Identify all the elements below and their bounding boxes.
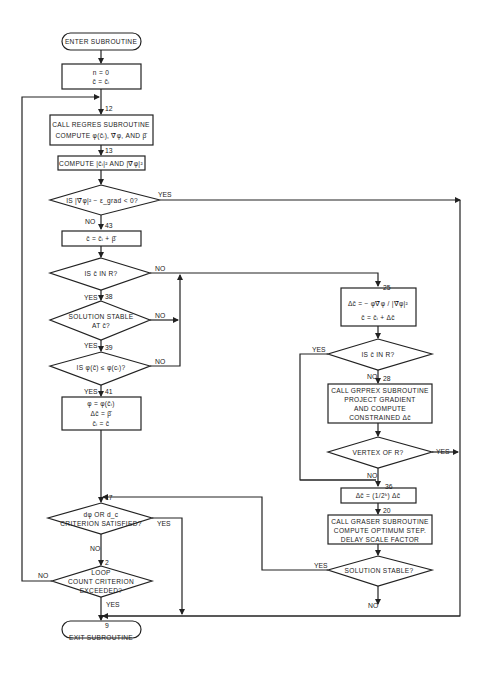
stable-right-text: SOLUTION STABLE?	[345, 567, 414, 574]
step-39: 39	[105, 344, 113, 351]
grad-no-label: NO	[85, 218, 95, 225]
init-box	[62, 64, 141, 89]
in-r-right-text: IS c̄ IN R?	[361, 351, 394, 358]
regres-box	[50, 115, 153, 145]
regres-line2: COMPUTE φ(c̄ᵢ), ∇̄φ, AND β̄	[55, 132, 147, 140]
stable-at-c-yes: YES	[84, 342, 98, 349]
graser-line3: DELAY SCALE FACTOR	[341, 536, 419, 543]
step-20: 20	[383, 507, 391, 514]
enter-label: ENTER SUBROUTINE	[65, 38, 138, 45]
accept-line2: Δc̄ = β̄	[91, 410, 113, 418]
accept-line1: φ = φ(c̄ᵢ)	[87, 400, 115, 408]
stable-right-yes: YES	[314, 562, 328, 569]
flowchart: ENTER SUBROUTINE n = 0 c̄ = c̄ᵢ 12 CALL …	[0, 0, 487, 674]
graser-line2: COMPUTE OPTIMUM STEP.	[334, 527, 426, 534]
grad-check-text: IS |∇̄φ|² − ε_grad < 0?	[66, 197, 138, 205]
stable-right-no: NO	[368, 602, 378, 609]
step-43: 43	[105, 222, 113, 229]
step-2: 2	[105, 559, 109, 566]
phi-check-no: NO	[155, 358, 165, 365]
step-9: 9	[105, 622, 109, 629]
stable-at-c-diamond	[50, 301, 150, 340]
step-41: 41	[105, 388, 113, 395]
criterion-line1: dφ OR d_c	[84, 511, 119, 519]
vertex-yes: YES	[436, 448, 450, 455]
update-c-text: c̄ = c̄ᵢ + β̄	[86, 235, 116, 243]
phi-check-yes: YES	[84, 388, 98, 395]
phi-check-text: IS φ(c̄) ≤ φ(cᵢ)?	[77, 364, 126, 372]
step-28: 28	[383, 375, 391, 382]
grprex-line1: CALL GRPREX SUBROUTINE	[331, 387, 429, 394]
grprex-line4: CONSTRAINED Δc̄	[349, 414, 411, 421]
norms-text: COMPUTE |c̄ᵢ|² AND |∇̄φ|²	[59, 160, 143, 168]
in-r-left-text: IS c̄ IN R?	[84, 270, 117, 277]
in-r-right-no: NO	[367, 373, 377, 380]
stable-at-c-line1: SOLUTION STABLE	[69, 313, 134, 320]
stable-at-c-line2: AT c̄?	[92, 322, 110, 329]
graser-line1: CALL GRASER SUBROUTINE	[331, 518, 429, 525]
criterion-no: NO	[90, 545, 100, 552]
gradient-step-line1: Δc̄ = − φ∇̄φ / |∇̄φ|²	[348, 300, 409, 308]
in-r-right-yes: YES	[312, 346, 326, 353]
gradient-step-line2: c̄ = c̄ᵢ + Δc̄	[361, 314, 395, 321]
step-25: 25	[383, 284, 391, 291]
stable-at-c-no: NO	[155, 312, 165, 319]
criterion-line2: CRITERION SATISFIED?	[60, 520, 141, 527]
step-13: 13	[105, 147, 113, 154]
loop-no: NO	[38, 572, 48, 579]
grad-yes-label: YES	[158, 191, 172, 198]
loop-line2: COUNT CRITERION	[68, 578, 134, 585]
vertex-no: NO	[367, 472, 377, 479]
vertex-text: VERTEX OF R?	[352, 449, 403, 456]
step-17: 17	[105, 494, 113, 501]
accept-line3: c̄ᵢ = c̄	[93, 420, 110, 427]
step-38: 38	[105, 293, 113, 300]
criterion-yes: YES	[157, 520, 171, 527]
exit-label: EXIT SUBROUTINE	[69, 634, 133, 641]
grprex-line3: AND COMPUTE	[354, 405, 406, 412]
loop-line3: EXCEEDED?	[80, 587, 123, 594]
step-36: 36	[385, 483, 393, 490]
loop-line1: LOOP	[91, 569, 111, 576]
step-12: 12	[105, 105, 113, 112]
criterion-diamond	[48, 503, 152, 534]
in-r-left-yes: YES	[84, 294, 98, 301]
init-line2: c̄ = c̄ᵢ	[93, 78, 110, 85]
regres-line1: CALL REGRES SUBROUTINE	[52, 121, 150, 128]
init-line1: n = 0	[93, 69, 109, 76]
in-r-left-no: NO	[155, 265, 165, 272]
grprex-line2: PROJECT GRADIENT	[344, 396, 415, 403]
loop-yes: YES	[106, 601, 120, 608]
halve-text: Δc̄ = (1/2ᵏ) Δc̄	[356, 492, 401, 500]
